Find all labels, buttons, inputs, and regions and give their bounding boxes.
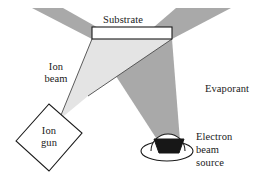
crucible bbox=[154, 139, 184, 153]
label-evaporant: Evaporant bbox=[205, 83, 249, 95]
substrate-rect bbox=[92, 27, 172, 39]
label-ion-gun: Iongun bbox=[33, 125, 65, 148]
label-ion-beam: Ionbeam bbox=[36, 61, 76, 84]
diagram-canvas: Substrate Ionbeam Iongun Evaporant Elect… bbox=[0, 0, 258, 182]
label-substrate: Substrate bbox=[103, 14, 143, 26]
label-electron-beam-source: Electronbeamsource bbox=[196, 130, 232, 169]
